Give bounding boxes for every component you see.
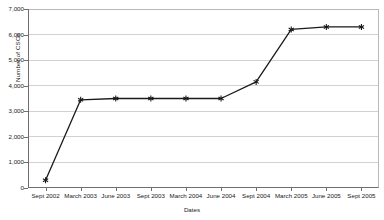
x-axis-tick-label: Sept 2005: [347, 192, 375, 199]
x-axis-tick: [151, 188, 152, 191]
y-axis-tick-label: 5,000: [2, 56, 24, 63]
x-axis-tick: [186, 188, 187, 191]
series-line: [46, 27, 362, 180]
data-point-marker: [43, 177, 48, 183]
y-axis-tick-label: 7,000: [2, 5, 24, 12]
x-axis-tick-label: March 2004: [170, 192, 203, 199]
x-axis-tick: [116, 188, 117, 191]
x-axis-title: Dates: [0, 206, 384, 213]
x-axis-tick-label: June 2005: [312, 192, 341, 199]
y-axis-tick-label: 3,000: [2, 107, 24, 114]
x-axis-tick-label: March 2005: [275, 192, 308, 199]
y-axis-tick-labels: 01,0002,0003,0004,0005,0006,0007,000: [0, 0, 24, 220]
y-axis-tick-label: 6,000: [2, 31, 24, 38]
x-axis-tick: [46, 188, 47, 191]
y-axis-tick: [24, 9, 28, 10]
y-axis-tick: [24, 137, 28, 138]
y-axis-tick: [24, 35, 28, 36]
y-axis-tick-label: 4,000: [2, 82, 24, 89]
x-axis-tick-label: Sept 2002: [31, 192, 59, 199]
data-series-layer: [28, 9, 379, 188]
x-axis-tick-label: June 2003: [101, 192, 130, 199]
y-axis-tick: [24, 86, 28, 87]
x-axis-tick: [221, 188, 222, 191]
x-axis-tick-label: Sept 2003: [137, 192, 165, 199]
x-axis-tick-label: March 2003: [64, 192, 97, 199]
y-axis-tick-label: 1,000: [2, 158, 24, 165]
y-axis-tick-label: 0: [2, 184, 24, 191]
y-axis-tick: [24, 188, 28, 189]
y-axis-tick: [24, 162, 28, 163]
x-axis-tick-label: June 2004: [207, 192, 236, 199]
line-chart: Number of CSOs 01,0002,0003,0004,0005,00…: [0, 0, 384, 220]
x-axis-tick: [361, 188, 362, 191]
y-axis-tick-label: 2,000: [2, 133, 24, 140]
x-axis-tick: [291, 188, 292, 191]
y-axis-tick: [24, 60, 28, 61]
x-axis-tick: [326, 188, 327, 191]
x-axis-tick: [256, 188, 257, 191]
y-axis-tick: [24, 111, 28, 112]
x-axis-tick-label: Sept 2004: [242, 192, 270, 199]
x-axis-tick: [81, 188, 82, 191]
